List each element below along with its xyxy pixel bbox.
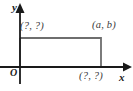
coordinate-diagram: y x O (?, ?) (a, b) (?, ?)	[0, 0, 133, 91]
top-right-vertex-label: (a, b)	[92, 20, 116, 31]
bottom-right-vertex-label: (?, ?)	[79, 71, 103, 82]
y-axis-label: y	[12, 2, 17, 13]
top-left-vertex-label: (?, ?)	[20, 21, 44, 32]
x-axis-label: x	[119, 72, 125, 83]
origin-label: O	[10, 68, 17, 78]
rectangle-shape	[20, 38, 101, 67]
rectangle-top-and-right-edges	[20, 38, 101, 67]
diagram-canvas	[0, 0, 133, 91]
